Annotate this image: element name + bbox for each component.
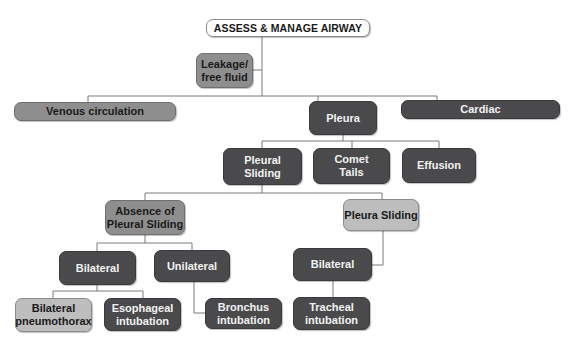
- node-bilateral-right: Bilateral: [293, 248, 372, 281]
- node-pleura-sliding: Pleura Sliding: [343, 199, 419, 231]
- node-pleural-sliding: Pleural Sliding: [223, 148, 302, 185]
- node-leakage-free-fluid: Leakage/ free fluid: [196, 53, 253, 88]
- node-bilateral-pneumothorax: Bilateral pneumothorax: [15, 298, 92, 332]
- node-cardiac: Cardiac: [401, 100, 560, 119]
- node-bilateral-left: Bilateral: [59, 251, 136, 285]
- node-comet-tails: Comet Tails: [313, 148, 390, 184]
- node-pleura: Pleura: [309, 101, 377, 135]
- node-bronchus-intubation: Bronchus intubation: [205, 298, 282, 329]
- node-unilateral: Unilateral: [154, 250, 230, 282]
- airway-assessment-flowchart: ASSESS & MANAGE AIRWAY Leakage/ free flu…: [0, 0, 575, 341]
- node-esophageal-intubation: Esophageal intubation: [104, 298, 181, 331]
- node-tracheal-intubation: Tracheal intubation: [293, 297, 370, 330]
- node-assess-manage-airway: ASSESS & MANAGE AIRWAY: [206, 19, 370, 37]
- node-venous-circulation: Venous circulation: [14, 102, 176, 121]
- node-absence-of-pleural-sliding: Absence of Pleural Sliding: [105, 200, 185, 235]
- node-effusion: Effusion: [402, 148, 476, 183]
